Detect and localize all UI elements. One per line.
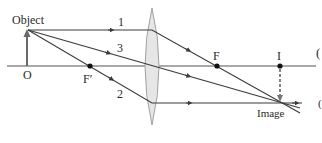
ray-3-arrow-right xyxy=(185,75,189,76)
edge-mark-top: ( xyxy=(316,45,320,60)
image-point-label: I xyxy=(277,49,281,63)
image-label: Image xyxy=(257,107,285,119)
focal-left-label: F′ xyxy=(83,72,93,86)
focal-right-label: F xyxy=(213,49,220,63)
ray-2-arrow xyxy=(108,77,112,79)
ray-3-arrow xyxy=(105,52,109,53)
ray-3-label: 3 xyxy=(117,41,123,55)
image-point xyxy=(277,63,282,68)
ray-diagram: Object O F′ F I Image 1 3 2 ( ( xyxy=(0,0,322,143)
object-label: Object xyxy=(12,13,45,27)
focal-point-left xyxy=(87,63,92,68)
ray-2-label: 2 xyxy=(117,87,123,101)
ray-3 xyxy=(28,30,300,108)
ray-1-arrow-right xyxy=(185,48,189,50)
focal-point-right xyxy=(214,63,219,68)
edge-mark-bottom: ( xyxy=(318,97,322,110)
object-point-label: O xyxy=(23,68,32,82)
ray-1-label: 1 xyxy=(118,15,124,29)
ray-1 xyxy=(28,30,300,113)
